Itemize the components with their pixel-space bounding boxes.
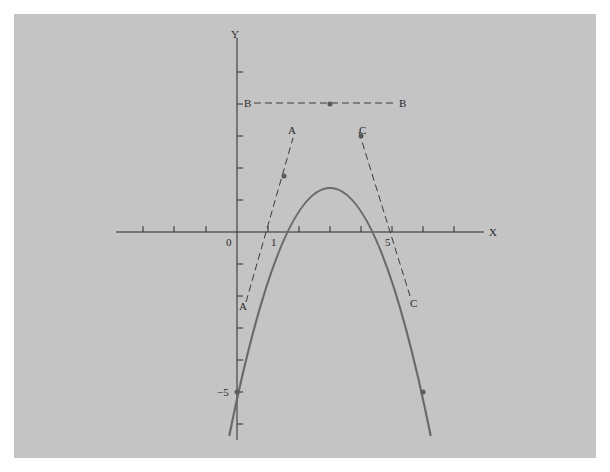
y-tick-label-neg5: −5 bbox=[217, 386, 229, 398]
tangent-b-label-left: B bbox=[244, 97, 251, 109]
tangent-line-c bbox=[359, 132, 410, 296]
tangent-c-label-bottom: C bbox=[410, 297, 417, 309]
origin-label: 0 bbox=[226, 236, 232, 248]
parabola-diagram: Y X 0 1 5 −5 B B A A C C bbox=[0, 0, 610, 472]
marked-points bbox=[235, 102, 426, 395]
tangent-a-label-top: A bbox=[288, 124, 296, 136]
tangent-b-label-right: B bbox=[399, 97, 406, 109]
x-tick-label-1: 1 bbox=[271, 236, 277, 248]
parabola-curve bbox=[229, 188, 431, 436]
tangent-a-label-bottom: A bbox=[239, 300, 247, 312]
y-axis-label: Y bbox=[231, 28, 239, 40]
x-ticks bbox=[143, 226, 454, 232]
tangent-c-label-top: C bbox=[359, 124, 366, 136]
x-tick-label-5: 5 bbox=[385, 236, 391, 248]
x-axis-label: X bbox=[489, 226, 497, 238]
y-ticks bbox=[237, 72, 243, 424]
